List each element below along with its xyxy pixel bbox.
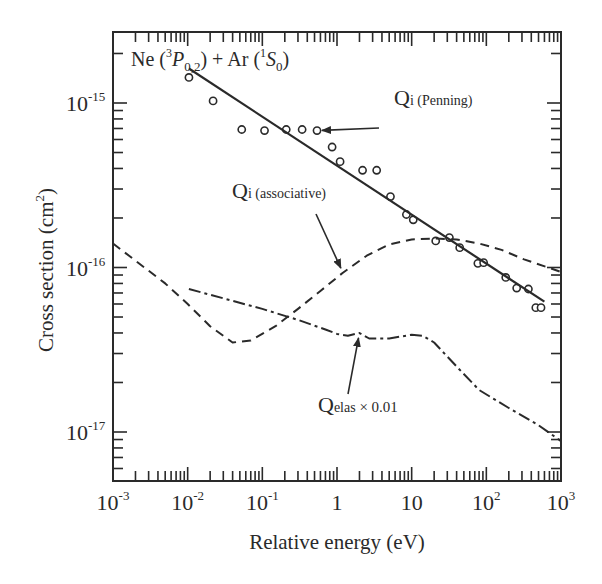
chart-title: Ne (3P0,2) + Ar (1S0) [131,46,289,74]
data-point [537,304,544,311]
data-point [299,126,306,133]
elastic-arrow [348,338,359,394]
dash-dot-curve [189,289,561,441]
data-point [238,126,245,133]
x-tick-label: 10-2 [171,488,204,515]
data-point [359,167,366,174]
y-axis-title: Cross section (cm2) [32,188,58,352]
data-point [373,167,380,174]
x-tick-label: 10-1 [246,488,279,515]
data-point [329,143,336,150]
cross-section-chart: 10-310-210-111010210310-1510-1610-17 Qi … [0,0,602,584]
associative-arrow [316,214,341,268]
elastic-label: Qelas × 0.01 [318,392,398,417]
data-series [113,69,561,442]
y-tick-label: 10-15 [66,89,105,116]
data-point [261,127,268,134]
x-axis-title: Relative energy (eV) [249,530,425,554]
x-tick-label: 10 [401,490,423,515]
data-point [313,127,320,134]
data-point [185,74,192,81]
associative-label: Qi (associative) [232,178,326,203]
data-point [209,97,216,104]
y-tick-label: 10-16 [66,254,106,281]
y-tick-label: 10-17 [66,418,106,445]
x-tick-label: 1 [332,490,343,515]
x-tick-label: 103 [547,488,576,515]
penning-label: Qi (Penning) [394,85,473,110]
dashed-curve [113,239,561,343]
data-point [336,158,343,165]
annotations: Qi (Penning)Qi (associative)Qelas × 0.01 [232,85,473,417]
x-tick-label: 10-3 [97,488,130,515]
x-tick-label: 102 [472,488,501,515]
axis-ticks: 10-310-210-111010210310-1510-1610-17 [66,32,575,515]
penning-arrow [322,128,379,130]
